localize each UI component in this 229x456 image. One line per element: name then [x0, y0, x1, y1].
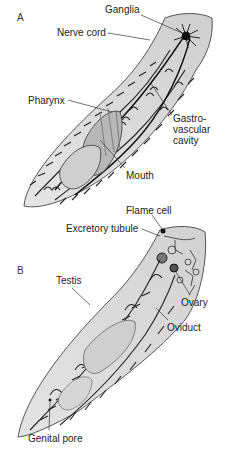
label-ovary: Ovary [181, 297, 208, 308]
label-nerve-cord: Nerve cord [57, 27, 106, 38]
label-mouth: Mouth [126, 170, 154, 181]
leader-flame-cell [152, 215, 162, 229]
leader-nerve-cord [108, 33, 150, 40]
label-excretory-tubule: Excretory tubule [66, 223, 138, 234]
worm-a-digestive-nervous [24, 14, 212, 207]
panel-label-a: A [17, 12, 24, 23]
label-testis: Testis [56, 275, 82, 286]
label-oviduct: Oviduct [167, 322, 201, 333]
genital-pore-mark [49, 399, 52, 402]
panel-label-b: B [17, 265, 24, 276]
label-gastrovascular-cavity: Gastro- vascular cavity [173, 113, 210, 146]
leader-testis [72, 288, 90, 305]
label-ganglia: Ganglia [105, 4, 139, 15]
label-flame-cell: Flame cell [126, 205, 172, 216]
leader-excretory-tubule [142, 229, 160, 236]
ovary-mark [170, 264, 178, 272]
label-genital-pore: Genital pore [28, 433, 82, 444]
flame-cell-mark [161, 229, 166, 234]
label-pharynx: Pharynx [28, 95, 65, 106]
